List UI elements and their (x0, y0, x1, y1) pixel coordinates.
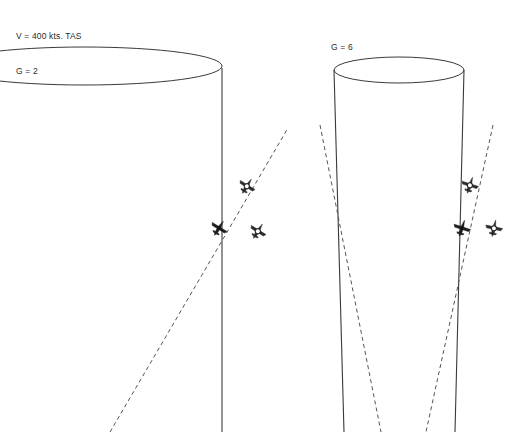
g2-airspeed-label: V = 400 kts. TAS (16, 31, 82, 43)
g2-aircraft-symbol-offset (246, 220, 269, 243)
g6-turn-cone-dashed-right (426, 125, 493, 432)
g6-annotation-block: G = 6 (331, 19, 353, 77)
g6-cone-side-left (334, 70, 344, 432)
g6-cone-side-right (455, 70, 464, 432)
g2-annotation-block: V = 400 kts. TAS G = 2 (16, 8, 82, 100)
g6-cone-top-ellipse (334, 57, 464, 83)
g6-load-factor-label: G = 6 (331, 42, 353, 54)
g6-aircraft-symbol-offset (484, 218, 504, 238)
g2-cone-group (0, 47, 288, 432)
g2-turn-radius-dashed-line (110, 128, 288, 432)
g6-aircraft-symbol-upper (459, 175, 480, 196)
diagram-canvas: V = 400 kts. TAS G = 2 G = 6 (0, 0, 516, 434)
g6-turn-cone-dashed-left (320, 125, 381, 432)
g6-cone-group (320, 57, 504, 432)
g6-aircraft-symbol-target (451, 218, 472, 239)
g2-aircraft-symbol-upper (235, 175, 258, 198)
g2-aircraft-symbol-target (207, 217, 230, 240)
g2-load-factor-label: G = 2 (16, 66, 82, 78)
